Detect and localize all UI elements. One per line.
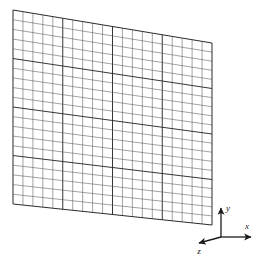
structured-quadrilateral-mesh: [13, 10, 212, 225]
mesh-figure-svg: yxz: [0, 0, 265, 262]
axis-z-label: z: [196, 246, 201, 256]
axis-x-label: x: [244, 221, 249, 231]
axis-y-label: y: [225, 203, 230, 213]
figure-root: yxz: [0, 0, 265, 262]
